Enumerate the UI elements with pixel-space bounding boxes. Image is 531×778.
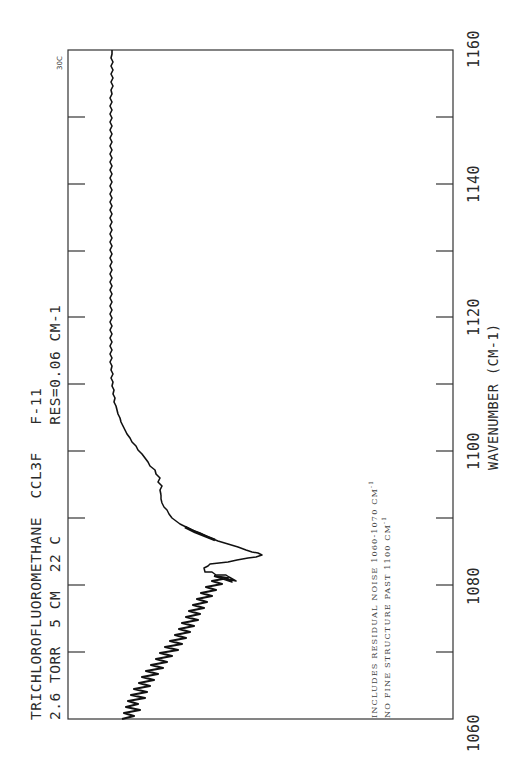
spectrum-chart xyxy=(0,0,531,778)
right-ticks xyxy=(436,117,453,652)
left-ticks xyxy=(68,117,85,652)
annotation-note-1-text: INCLUDES RESIDUAL NOISE 1060-1070 CM xyxy=(369,488,379,718)
corner-label: 30C xyxy=(56,56,64,70)
spectrum-trace-shoulder xyxy=(185,527,215,540)
x-axis-label: WAVENUMBER (CM-1) xyxy=(485,323,501,470)
tick-label-1160: 1160 xyxy=(465,30,483,68)
spectrum-trace-baseline xyxy=(110,50,162,495)
tick-label-1100: 1100 xyxy=(465,432,483,470)
plot-frame xyxy=(68,50,453,719)
title-line-1: TRICHLOROFLUOROMETHANE CCL3F F-11 xyxy=(28,388,44,720)
annotation-note-1: INCLUDES RESIDUAL NOISE 1060-1070 CM-1 xyxy=(367,480,379,718)
annotation-note-2-sup: -1 xyxy=(380,516,387,524)
title-line-2: 2.6 TORR 5 CM 22 C RES=0.06 CM-1 xyxy=(47,305,63,720)
annotation-note-2: NO FINE STRUCTURE PAST 1100 CM-1 xyxy=(380,516,392,718)
tick-label-1060: 1060 xyxy=(465,714,483,752)
tick-label-1120: 1120 xyxy=(465,298,483,336)
spectrum-trace-noisy xyxy=(122,576,228,719)
tick-label-1140: 1140 xyxy=(465,165,483,203)
annotation-note-2-text: NO FINE STRUCTURE PAST 1100 CM xyxy=(382,524,392,718)
annotation-note-1-sup: -1 xyxy=(367,480,374,488)
tick-label-1080: 1080 xyxy=(465,567,483,605)
